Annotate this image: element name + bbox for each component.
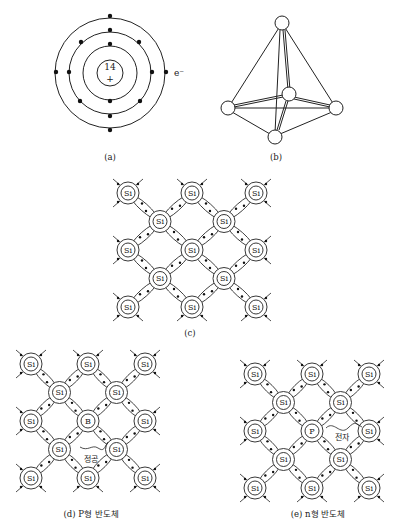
atom-right xyxy=(329,101,343,115)
panel-e-caption: (e) n형 반도체 xyxy=(291,509,346,519)
atom-symbol: Si xyxy=(365,427,373,436)
shell-3 xyxy=(55,18,165,128)
nucleus-charge: + xyxy=(106,74,114,84)
atom-symbol: Si xyxy=(188,189,196,198)
atom-symbol: Si xyxy=(124,246,132,255)
atom-symbol: Si xyxy=(156,274,164,283)
panel-c-caption: (c) xyxy=(184,328,195,338)
diagram-canvas: 14 + e⁻ (a) (b) SiSiSiSiSiSiSiSiSiSiSiSi… xyxy=(0,0,401,532)
atom-symbol: Si xyxy=(112,445,120,454)
electron-arrow xyxy=(326,423,362,430)
atom-symbol: Si xyxy=(251,484,259,493)
atom-center xyxy=(282,87,296,101)
atom-symbol: Si xyxy=(124,189,132,198)
atom-symbol: Si xyxy=(279,398,287,407)
panel-e-n-type-lattice: SiSiSiSiSiSiPSiSiSiSiSiSi xyxy=(240,360,384,502)
hole-arrow xyxy=(80,442,108,450)
atom-symbol: Si xyxy=(27,474,35,483)
atom-symbol: Si xyxy=(220,217,228,226)
hole-label: 정공 xyxy=(84,454,98,464)
atom-symbol: Si xyxy=(365,370,373,379)
atom-symbol: Si xyxy=(141,474,149,483)
atom-symbol: Si xyxy=(252,246,260,255)
panel-d-p-type-lattice: SiSiSiSiSiSiBSiSiSiSiSiSi xyxy=(16,350,160,492)
atom-symbol: Si xyxy=(365,484,373,493)
atom-symbol: Si xyxy=(84,474,92,483)
atom-symbol: Si xyxy=(188,246,196,255)
panel-b-caption: (b) xyxy=(270,152,282,162)
panel-a-bohr-model xyxy=(55,18,165,128)
panel-d-caption: (d) P형 반도체 xyxy=(63,509,118,519)
atom-symbol: Si xyxy=(141,360,149,369)
nucleus-number: 14 xyxy=(104,62,116,72)
panel-b-tetrahedron xyxy=(221,16,343,144)
atom-symbol: Si xyxy=(84,360,92,369)
atom-symbol: Si xyxy=(308,484,316,493)
electrons xyxy=(54,14,168,132)
electron-free-label: 전자 xyxy=(335,432,350,442)
panel-a-caption: (a) xyxy=(104,152,116,162)
electron-label: e⁻ xyxy=(174,68,184,78)
atom-symbol: Si xyxy=(336,398,344,407)
atom-symbol: Si xyxy=(55,388,63,397)
atom-symbol: Si xyxy=(112,388,120,397)
atom-symbol: Si xyxy=(252,303,260,312)
atom-symbol: Si xyxy=(279,455,287,464)
atom-symbol: Si xyxy=(251,427,259,436)
atom-symbol: Si xyxy=(124,303,132,312)
atom-symbol: Si xyxy=(156,217,164,226)
atom-bottom xyxy=(268,130,282,144)
atom-left xyxy=(221,101,235,115)
atom-symbol: P xyxy=(309,427,315,436)
atom-symbol: Si xyxy=(27,360,35,369)
atom-symbol: Si xyxy=(336,455,344,464)
atom-symbol: B xyxy=(85,417,91,426)
atom-symbol: Si xyxy=(308,370,316,379)
atom-symbol: Si xyxy=(251,370,259,379)
atom-symbol: Si xyxy=(55,445,63,454)
atom-symbol: Si xyxy=(252,189,260,198)
atom-top xyxy=(275,16,289,30)
shell-1 xyxy=(83,46,137,100)
atom-symbol: Si xyxy=(141,417,149,426)
panel-c-silicon-lattice: SiSiSiSiSiSiSiSiSiSiSiSiSi xyxy=(113,179,271,321)
atom-symbol: Si xyxy=(27,417,35,426)
atom-symbol: Si xyxy=(220,274,228,283)
atom-symbol: Si xyxy=(188,303,196,312)
